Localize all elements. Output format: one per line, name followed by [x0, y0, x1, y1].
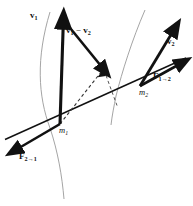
collision-diagram-figure: v1 v1 − v2 v2 F1→2 F2→1 m1 m2: [0, 0, 193, 206]
label-v1-minus-v2: v1 − v2: [66, 25, 91, 36]
figure-background: [0, 0, 193, 206]
collision-diagram-canvas: v1 v1 − v2 v2 F1→2 F2→1 m1 m2: [0, 0, 193, 206]
